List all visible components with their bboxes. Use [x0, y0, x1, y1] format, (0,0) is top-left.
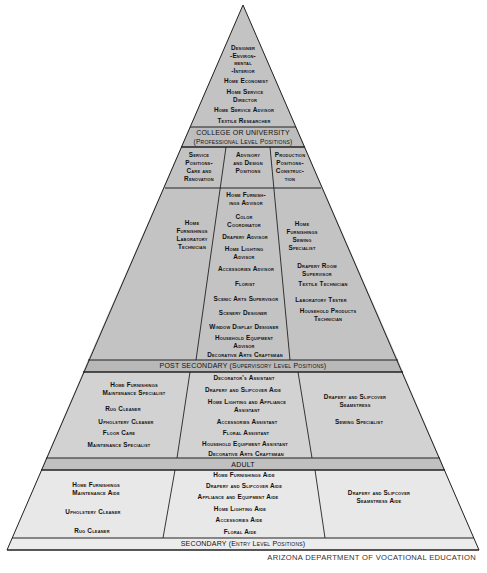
- college-item: Household Equipment Advisor: [215, 334, 273, 350]
- post-secondary-item: Floor Care: [103, 429, 135, 437]
- apex-item: Designer -Environ- mental -Interior: [230, 44, 256, 74]
- college-item: Color Coordinator: [227, 213, 261, 229]
- post-secondary-item: Home Furnishings Maintenance Specialist: [103, 381, 166, 397]
- college-item: Decorative Arts Craftsman: [207, 351, 283, 359]
- college-item: Window Display Designer: [209, 323, 278, 331]
- adult-item: Home Furnishings Aide: [213, 471, 275, 479]
- post-secondary-item: Upholstery Cleaner: [98, 418, 153, 426]
- adult-item: Accessories Aide: [216, 516, 263, 524]
- college-item: Laboratory Tester: [295, 296, 347, 304]
- college-label: COLLEGE OR UNIVERSITY: [196, 129, 290, 137]
- career-ladder-pyramid: Designer -Environ- mental -Interior Home…: [0, 0, 487, 573]
- post-secondary-item: Accessories Assistant: [217, 418, 278, 426]
- adult-item: Home Lighting Aide: [214, 505, 267, 513]
- post-secondary-item: Floral Assistant: [223, 429, 270, 437]
- adult-item: Rug Cleaner: [74, 527, 110, 535]
- college-item: Drapery Advisor: [222, 233, 268, 241]
- college-col-header-service: Service Positions- Care and Renovation: [184, 151, 214, 183]
- post-secondary-item: Drapery and Slipcover Seamstress: [324, 393, 386, 409]
- college-col-header-production: Production Positions- Construc- tion: [275, 151, 305, 183]
- college-col-header-advisory: Advisory and Design Positions: [233, 151, 263, 175]
- post-secondary-item: Decorator's Assistant: [213, 374, 274, 382]
- college-item: Home Furnishings Laboratory Technician: [176, 219, 207, 251]
- college-item: Scenic Arts Supervisor: [214, 295, 279, 303]
- post-secondary-item: Maintenance Specialist: [88, 441, 151, 449]
- credit-line: ARIZONA DEPARTMENT OF VOCATIONAL EDUCATI…: [267, 553, 476, 562]
- college-item: Textile Technician: [298, 280, 347, 288]
- adult-label: ADULT: [231, 461, 254, 469]
- adult-item: Upholstery Cleaner: [65, 508, 120, 516]
- college-item: Scenery Designer: [219, 309, 267, 317]
- apex-item: Home Economist: [224, 77, 268, 85]
- post-secondary-item: Household Equipment Assistant: [202, 440, 288, 448]
- college-sublabel: (Professional Level Positions): [194, 138, 293, 146]
- apex-item: Textile Researcher: [217, 117, 270, 125]
- adult-item: Drapery and Slipcover Aide: [206, 482, 282, 490]
- college-item: Accessories Advisor: [218, 265, 274, 273]
- adult-item: Drapery and Slipcover Seamstress Aide: [348, 489, 410, 505]
- post-secondary-item: Sewing Specialist: [335, 418, 383, 426]
- post-secondary-item: Drapery and Slipcover Aide: [205, 386, 281, 394]
- apex-item: Home Service Director: [227, 88, 264, 104]
- post-secondary-label: POST SECONDARY (Supervisory Level Positi…: [160, 362, 327, 370]
- apex-item: Home Service Advisor: [214, 106, 274, 114]
- adult-item: Floral Aide: [224, 528, 257, 536]
- college-item: Home Lighting Advisor: [225, 245, 264, 261]
- college-item: Drapery Room Supervisor: [297, 262, 336, 278]
- post-secondary-item: Rug Cleaner: [105, 405, 141, 413]
- adult-item: Home Furnishings Maintenance Aide: [72, 481, 120, 497]
- adult-item: Appliance and Equipment Aide: [198, 493, 279, 501]
- post-secondary-item: Decorative Arts Craftsman: [208, 450, 284, 458]
- post-secondary-item: Home Lighting and Appliance Assistant: [208, 398, 286, 414]
- college-item: Household Products Technician: [300, 307, 357, 323]
- college-item: Home Furnishings Sewing Specialist: [286, 220, 317, 252]
- college-item: Home Furnish- ings Advisor: [226, 191, 265, 207]
- secondary-label: SECONDARY (Entry Level Positions): [181, 540, 306, 548]
- college-item: Florist: [235, 280, 255, 288]
